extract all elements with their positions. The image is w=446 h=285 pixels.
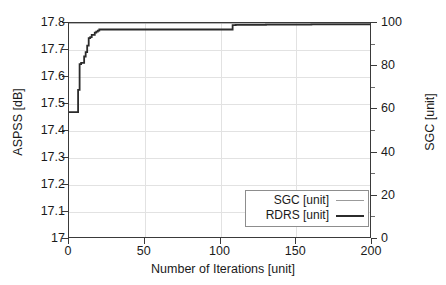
y-axis-minor-tick-right — [371, 87, 375, 88]
legend-label-sgc: SGC [unit] — [274, 194, 329, 207]
y-axis-ticklabel-right: 100 — [381, 16, 402, 28]
y-axis-minor-tick-right — [371, 130, 375, 131]
y-axis-ticklabel-left: 17.8 — [41, 16, 65, 28]
y-axis-ticklabel-right: 0 — [381, 232, 388, 244]
y-axis-minor-tick-right — [371, 173, 375, 174]
y-axis-minor-tick-right — [371, 44, 375, 45]
legend-item-sgc: SGC [unit] — [250, 193, 364, 208]
y-axis-ticklabel-left: 17.7 — [41, 43, 65, 55]
series-line-rdrs — [69, 24, 371, 112]
y-axis-ticklabel-right: 20 — [381, 189, 395, 201]
legend-swatch-rdrs — [336, 215, 364, 217]
legend-label-rdrs: RDRS [unit] — [266, 209, 329, 222]
y-axis-tick-right — [371, 108, 377, 109]
x-axis-ticklabel: 0 — [65, 245, 72, 258]
y-axis-ticklabel-right: 40 — [381, 146, 395, 158]
y-axis-tick-right — [371, 65, 377, 66]
x-axis-ticklabel: 150 — [285, 245, 306, 258]
y-axis-tick-right — [371, 152, 377, 153]
y-axis-title-left: ASPSS [dB] — [11, 62, 25, 182]
y-axis-minor-tick-right — [371, 216, 375, 217]
y-axis-ticklabel-left: 17 — [51, 232, 65, 244]
y-axis-ticklabel-left: 17.4 — [41, 124, 65, 136]
y-axis-tick-right — [371, 195, 377, 196]
x-axis-ticklabel: 100 — [209, 245, 230, 258]
x-axis-ticklabel: 50 — [137, 245, 151, 258]
chart-figure: SGC [unit] RDRS [unit] Number of Iterati… — [0, 0, 446, 285]
y-axis-ticklabel-left: 17.1 — [41, 205, 65, 217]
y-axis-title-right: SGC [unit] — [423, 62, 437, 182]
y-axis-ticklabel-left: 17.2 — [41, 178, 65, 190]
y-axis-ticklabel-left: 17.6 — [41, 70, 65, 82]
x-axis-ticklabel: 200 — [361, 245, 382, 258]
x-axis-title: Number of Iterations [unit] — [0, 262, 446, 276]
legend-item-rdrs: RDRS [unit] — [250, 208, 364, 223]
y-axis-ticklabel-left: 17.5 — [41, 97, 65, 109]
chart-legend: SGC [unit] RDRS [unit] — [245, 190, 369, 227]
y-axis-ticklabel-left: 17.3 — [41, 151, 65, 163]
y-axis-tick-right — [371, 22, 377, 23]
y-axis-ticklabel-right: 80 — [381, 59, 395, 71]
legend-swatch-sgc — [336, 200, 364, 201]
y-axis-ticklabel-right: 60 — [381, 102, 395, 114]
